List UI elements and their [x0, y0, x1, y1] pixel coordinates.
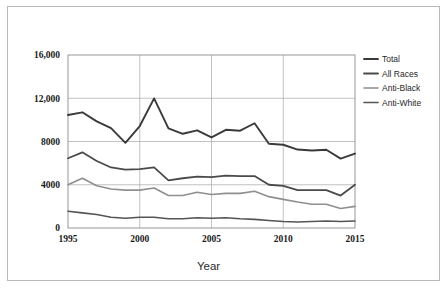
y-tick-label: 0	[55, 223, 60, 233]
x-tick-label: 2000	[130, 234, 149, 244]
x-tick-label: 2005	[202, 234, 221, 244]
y-axis-tick-labels: 04000800012,00016,000	[34, 50, 60, 233]
y-tick-label: 8000	[41, 137, 60, 147]
y-tick-label: 4000	[41, 180, 60, 190]
y-tick-label: 16,000	[34, 50, 60, 60]
chart-figure: 04000800012,00016,000 199520002005201020…	[0, 0, 447, 290]
chart-legend: TotalAll RacesAnti-BlackAnti-White	[364, 54, 421, 107]
x-tick-label: 2010	[274, 234, 293, 244]
x-axis-title: Year	[197, 260, 220, 272]
x-axis-tick-labels: 19952000200520102015	[59, 234, 365, 244]
x-tick-label: 2015	[346, 234, 365, 244]
gridlines	[68, 55, 355, 228]
x-tick-label: 1995	[59, 234, 78, 244]
legend-label-all-races: All Races	[382, 69, 418, 79]
legend-label-anti-black: Anti-Black	[382, 83, 421, 93]
line-chart: 04000800012,00016,000 199520002005201020…	[0, 0, 447, 290]
legend-label-total: Total	[382, 54, 400, 64]
y-tick-label: 12,000	[34, 94, 60, 104]
legend-label-anti-white: Anti-White	[382, 98, 421, 108]
